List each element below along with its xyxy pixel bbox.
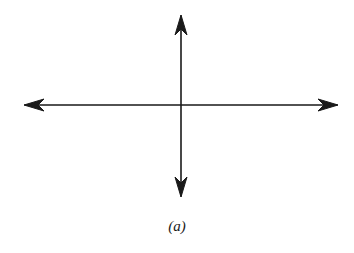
figure-caption: (a) bbox=[0, 218, 354, 235]
coordinate-axes-diagram bbox=[0, 0, 354, 253]
